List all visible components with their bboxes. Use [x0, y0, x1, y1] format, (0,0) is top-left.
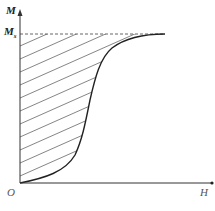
saturation-label-main: M: [4, 25, 14, 37]
saturation-label-subscript: s: [14, 32, 17, 40]
x-axis-end-dot-icon: [210, 181, 213, 184]
y-axis-arrow-icon: [18, 9, 23, 16]
hatched-region: [20, 0, 200, 189]
magnetization-curve: [20, 34, 165, 183]
origin-label: O: [7, 187, 15, 198]
y-axis-label: M: [6, 5, 16, 16]
saturation-label: Ms: [4, 26, 17, 40]
x-axis-label: H: [200, 187, 208, 198]
figure-caption: [50, 201, 165, 207]
magnetization-diagram: [0, 0, 215, 211]
